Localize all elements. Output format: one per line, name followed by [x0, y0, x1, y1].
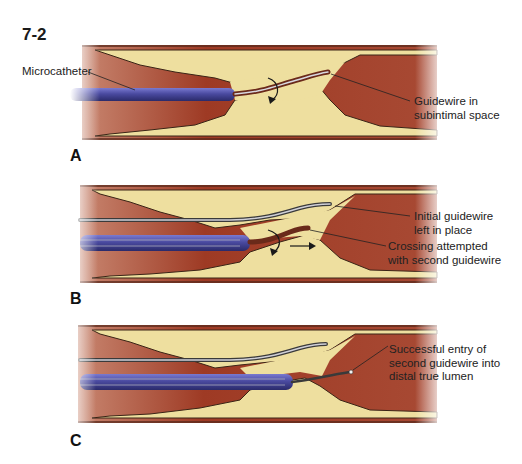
panel-c: Successful entry of second guidewire int…: [0, 320, 522, 464]
vessel-illustration-a: [0, 0, 522, 160]
callout-initial-guidewire: Initial guidewire left in place: [414, 210, 493, 237]
panel-label-c: C: [70, 432, 82, 450]
callout-guidewire-subintimal: Guidewire in subintimal space: [414, 95, 500, 122]
callout-microcatheter: Microcatheter: [22, 65, 92, 79]
panel-label-b: B: [70, 290, 82, 308]
callout-crossing-attempted: Crossing attempted with second guidewire: [388, 240, 501, 267]
panel-label-a: A: [70, 147, 82, 165]
panel-a: Microcatheter Guidewire in subintimal sp…: [0, 0, 522, 160]
panel-b: Initial guidewire left in place Crossing…: [0, 180, 522, 310]
callout-successful-entry: Successful entry of second guidewire int…: [389, 343, 500, 384]
